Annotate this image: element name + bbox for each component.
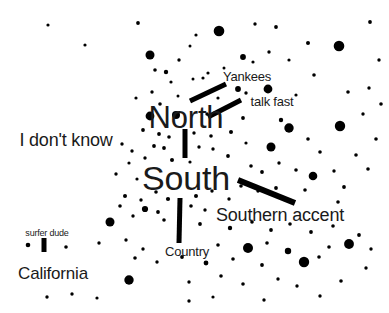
word-label-surfer-dude: surfer dude	[25, 229, 68, 238]
word-label-i-don-t-know: I don't know	[19, 131, 112, 149]
word-label-south: South	[142, 161, 230, 195]
word-label-country: Country	[165, 245, 209, 258]
word-label-southern-accent: Southern accent	[216, 206, 344, 224]
word-label-talk-fast: talk fast	[251, 95, 294, 108]
word-label-north: North	[149, 102, 224, 133]
word-label-group: NorthSouthYankeestalk fastSouthern accen…	[0, 0, 389, 313]
word-label-california: California	[18, 265, 88, 282]
word-scatter-figure: NorthSouthYankeestalk fastSouthern accen…	[0, 0, 389, 313]
word-label-yankees: Yankees	[223, 70, 271, 83]
